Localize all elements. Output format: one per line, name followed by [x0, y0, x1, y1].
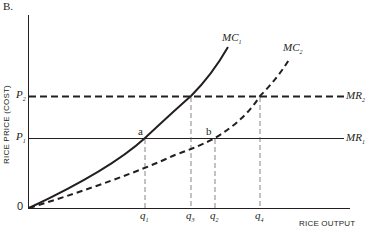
mc1-label: MC1 [222, 31, 242, 45]
mc1-curve [29, 47, 228, 208]
mc2-label: MC2 [283, 41, 303, 55]
q1-label: q1 [140, 209, 149, 223]
x-axis-label: RICE OUTPUT [299, 219, 355, 228]
mr2-label: MR2 [346, 89, 365, 103]
mr1-label: MR1 [346, 131, 365, 145]
point-b-label: b [206, 125, 212, 137]
q4-label: q4 [255, 209, 264, 223]
y-axis-label: RICE PRICE (COST) [2, 85, 11, 165]
panel-label: B. [3, 0, 13, 12]
q2-label: q2 [210, 209, 219, 223]
point-a-label: a [138, 125, 143, 137]
diagram-canvas [0, 0, 367, 232]
q3-label: q3 [186, 209, 195, 223]
p2-label: P2 [16, 88, 26, 102]
mc2-curve [29, 58, 290, 208]
p1-label: P1 [16, 130, 26, 144]
origin-label: 0 [17, 200, 23, 212]
